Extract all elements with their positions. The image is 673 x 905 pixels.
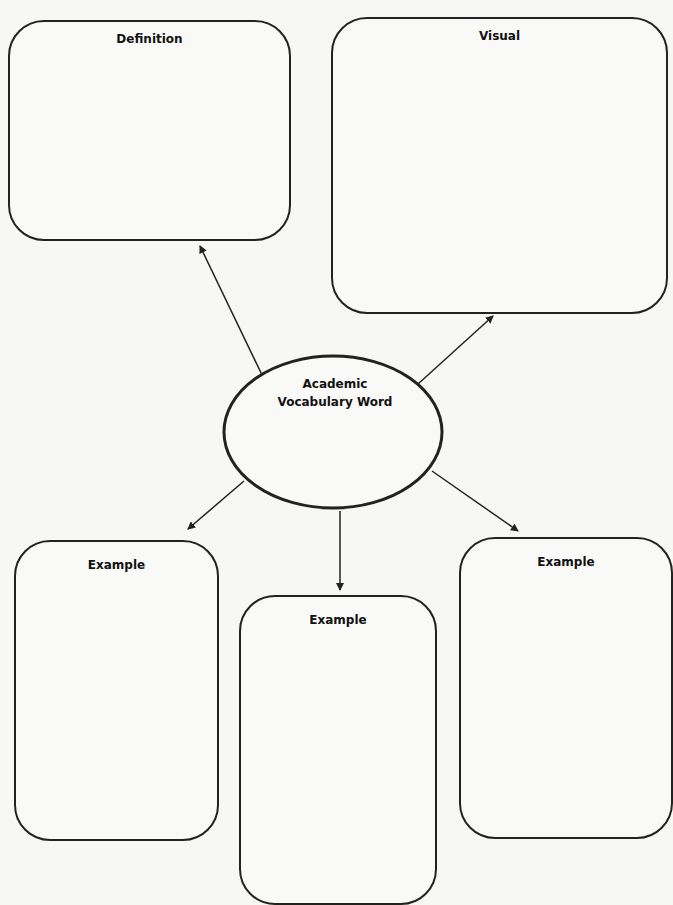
center-line-1: Academic [265,375,405,393]
example-left-title: Example [16,558,217,572]
visual-title: Visual [333,29,666,43]
arrow-to-visual [418,316,493,384]
example-box-left[interactable]: Example [14,540,219,841]
visual-box[interactable]: Visual [331,17,668,314]
definition-box[interactable]: Definition [8,20,291,241]
arrow-to-example-right [432,471,518,531]
definition-title: Definition [10,32,289,46]
example-box-right[interactable]: Example [459,537,673,839]
example-right-title: Example [461,555,671,569]
center-line-2: Vocabulary Word [265,393,405,411]
arrow-to-example-left [188,481,244,529]
center-word-label: Academic Vocabulary Word [265,375,405,411]
example-middle-title: Example [241,613,435,627]
example-box-middle[interactable]: Example [239,595,437,905]
arrow-to-definition [200,246,263,377]
